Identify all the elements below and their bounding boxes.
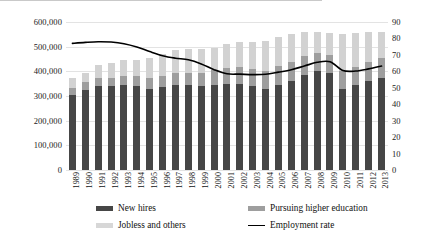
chart-container: 0100,000200,000300,000400,000500,000600,… bbox=[0, 0, 436, 249]
legend-line-icon bbox=[248, 223, 265, 228]
x-axis-tick-slot: 1995 bbox=[143, 172, 156, 200]
x-axis-tick: 2013 bbox=[381, 172, 390, 188]
legend-label: Employment rate bbox=[270, 220, 334, 230]
x-axis-labels: 1989199019911992199319941995199619971998… bbox=[66, 172, 388, 200]
x-axis-tick-slot: 1994 bbox=[130, 172, 143, 200]
legend-item-pursuing-higher-education: Pursuing higher education bbox=[248, 203, 368, 213]
x-axis-tick-slot: 1999 bbox=[195, 172, 208, 200]
y-axis-right-tick: 40 bbox=[392, 99, 401, 109]
x-axis-tick-slot: 2013 bbox=[375, 172, 388, 200]
x-axis-tick-slot: 2004 bbox=[259, 172, 272, 200]
x-axis-tick-slot: 2009 bbox=[324, 172, 337, 200]
y-axis-right-tick: 0 bbox=[392, 165, 396, 175]
x-axis-tick-slot: 2001 bbox=[221, 172, 234, 200]
y-axis-right-tick: 20 bbox=[392, 132, 401, 142]
legend-item-jobless-and-others: Jobless and others bbox=[96, 220, 186, 230]
legend-item-new-hires: New hires bbox=[96, 203, 156, 213]
chart-legend: New hires Jobless and others Pursuing hi… bbox=[68, 203, 408, 237]
x-axis-tick-slot: 2010 bbox=[336, 172, 349, 200]
y-axis-right-tick: 60 bbox=[392, 66, 401, 76]
y-axis-left: 0100,000200,000300,000400,000500,000600,… bbox=[0, 0, 62, 249]
x-axis-tick-slot: 2005 bbox=[272, 172, 285, 200]
y-axis-right-tick: 90 bbox=[392, 17, 401, 27]
y-axis-left-tick: 200,000 bbox=[34, 116, 62, 126]
y-axis-left-tick: 0 bbox=[58, 165, 62, 175]
x-axis-tick-slot: 2006 bbox=[285, 172, 298, 200]
legend-item-employment-rate: Employment rate bbox=[248, 220, 334, 230]
x-axis-tick-slot: 2012 bbox=[362, 172, 375, 200]
x-axis-tick-slot: 1998 bbox=[182, 172, 195, 200]
legend-label: Jobless and others bbox=[118, 220, 186, 230]
x-axis-tick-slot: 2002 bbox=[233, 172, 246, 200]
y-axis-left-tick: 600,000 bbox=[34, 17, 62, 27]
x-axis-tick-slot: 2008 bbox=[311, 172, 324, 200]
x-axis-tick-slot: 1992 bbox=[105, 172, 118, 200]
y-axis-right-tick: 70 bbox=[392, 50, 401, 60]
legend-swatch-icon bbox=[96, 223, 113, 228]
y-axis-right-tick: 10 bbox=[392, 149, 401, 159]
x-axis-tick-slot: 1989 bbox=[66, 172, 79, 200]
y-axis-left-tick: 300,000 bbox=[34, 91, 62, 101]
grid-line bbox=[66, 170, 388, 171]
x-axis-tick-slot: 1990 bbox=[79, 172, 92, 200]
legend-label: Pursuing higher education bbox=[270, 203, 368, 213]
x-axis-tick-slot: 1996 bbox=[156, 172, 169, 200]
x-axis-tick-slot: 2011 bbox=[349, 172, 362, 200]
x-axis-tick-slot: 2000 bbox=[208, 172, 221, 200]
x-axis-tick-slot: 2007 bbox=[298, 172, 311, 200]
y-axis-right-tick: 50 bbox=[392, 83, 401, 93]
legend-swatch-icon bbox=[248, 206, 265, 211]
y-axis-left-tick: 500,000 bbox=[34, 42, 62, 52]
employment-rate-line bbox=[66, 22, 388, 170]
legend-swatch-icon bbox=[96, 206, 113, 211]
x-axis-tick-slot: 2003 bbox=[246, 172, 259, 200]
line-path bbox=[72, 42, 381, 75]
y-axis-right-tick: 80 bbox=[392, 33, 401, 43]
x-axis-tick-slot: 1991 bbox=[92, 172, 105, 200]
y-axis-left-tick: 100,000 bbox=[34, 140, 62, 150]
y-axis-right-tick: 30 bbox=[392, 116, 401, 126]
x-axis-tick-slot: 1993 bbox=[118, 172, 131, 200]
y-axis-left-tick: 400,000 bbox=[34, 66, 62, 76]
legend-label: New hires bbox=[118, 203, 156, 213]
x-axis-tick-slot: 1997 bbox=[169, 172, 182, 200]
